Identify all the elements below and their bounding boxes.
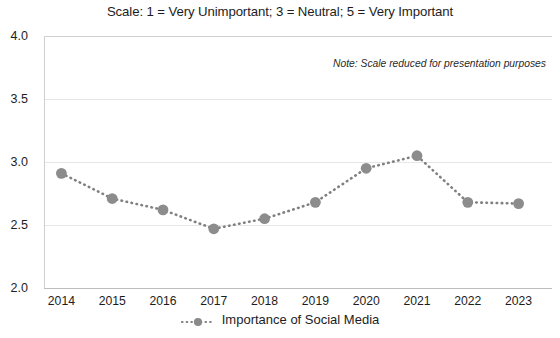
chart-legend: Importance of Social Media [0,312,560,327]
legend-marker-icon [181,314,215,326]
data-point-marker [107,193,118,204]
x-axis-tick-label: 2016 [136,294,190,308]
x-axis-tick-label: 2022 [441,294,495,308]
data-point-marker [208,223,219,234]
x-axis-tick-label: 2014 [34,294,88,308]
x-axis-tick-label: 2015 [85,294,139,308]
legend-item-label: Importance of Social Media [222,312,380,327]
y-axis-tick-label: 2.5 [0,218,28,232]
y-axis-tick-label: 4.0 [0,29,28,43]
y-axis-tick-label: 3.5 [0,92,28,106]
x-axis-tick-label: 2021 [390,294,444,308]
x-axis-line [44,288,552,289]
plot-area: Note: Scale reduced for presentation pur… [44,36,552,288]
data-point-marker [158,204,169,215]
y-axis-tick-label: 2.0 [0,281,28,295]
series-line [61,156,518,229]
data-point-marker [310,197,321,208]
y-axis-tick-label: 3.0 [0,155,28,169]
chart-title: Scale: 1 = Very Unimportant; 3 = Neutral… [0,4,560,19]
data-point-marker [361,163,372,174]
data-point-marker [259,213,270,224]
data-point-marker [56,168,67,179]
data-point-marker [462,197,473,208]
data-point-marker [412,150,423,161]
chart-container: Scale: 1 = Very Unimportant; 3 = Neutral… [0,0,560,338]
data-point-marker [513,198,524,209]
data-series-importance-of-social-media [44,36,552,288]
x-axis-tick-label: 2017 [187,294,241,308]
x-axis-tick-label: 2018 [238,294,292,308]
x-axis-tick-label: 2019 [288,294,342,308]
x-axis-tick-label: 2023 [492,294,546,308]
x-axis-tick-label: 2020 [339,294,393,308]
